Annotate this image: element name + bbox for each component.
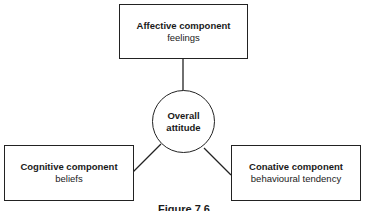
center-line1: Overall: [167, 110, 199, 122]
conative-component-box: Conative component behavioural tendency: [231, 145, 361, 201]
overall-attitude-circle: Overall attitude: [152, 90, 215, 153]
figure-caption: Figure 7.6: [0, 203, 368, 211]
connector-left: [133, 144, 161, 172]
cognitive-component-box: Cognitive component beliefs: [4, 145, 134, 201]
center-line2: attitude: [166, 122, 200, 134]
conative-title: Conative component: [249, 161, 343, 173]
affective-component-box: Affective component feelings: [119, 4, 248, 59]
affective-subtitle: feelings: [167, 32, 200, 44]
connector-right: [204, 148, 231, 175]
cognitive-subtitle: beliefs: [55, 173, 82, 185]
cognitive-title: Cognitive component: [20, 161, 117, 173]
affective-title: Affective component: [137, 20, 231, 32]
conative-subtitle: behavioural tendency: [251, 173, 341, 185]
